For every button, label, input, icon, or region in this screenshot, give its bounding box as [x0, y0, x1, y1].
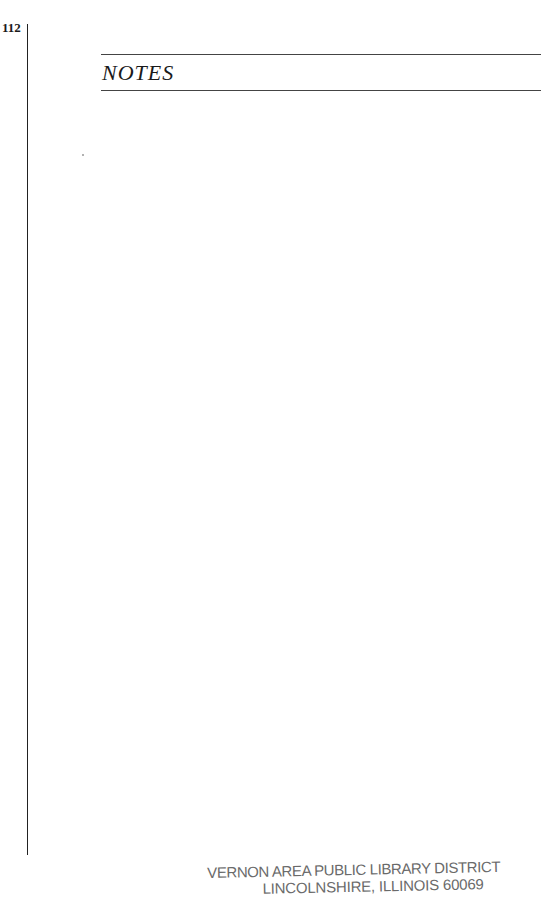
margin-rule [27, 24, 28, 855]
page-number: 112 [2, 20, 21, 36]
section-title: NOTES [102, 60, 174, 86]
header-bottom-rule [101, 90, 541, 91]
library-stamp: VERNON AREA PUBLIC LIBRARY DISTRICT LINC… [207, 857, 555, 898]
header-top-rule [101, 54, 541, 55]
notes-header: NOTES [101, 54, 541, 92]
paper-speck [82, 154, 84, 156]
